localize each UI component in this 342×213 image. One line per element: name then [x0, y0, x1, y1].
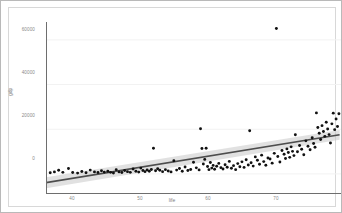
y-tick-label-60000: 60000: [9, 27, 35, 32]
data-points: [49, 27, 341, 175]
plot-area: [46, 22, 341, 194]
x-axis-title: life: [1, 197, 342, 203]
regression-line: [46, 135, 340, 183]
y-tick-label-0: 0: [9, 156, 35, 161]
scatter-plot-svg: [46, 22, 341, 194]
chart-frame: gdp 60000 40000 20000 0 40 50 60 70 life: [0, 0, 342, 213]
y-tick-label-40000: 40000: [9, 70, 35, 75]
y-axis-title: gdp: [7, 88, 13, 96]
chart-panel: gdp 60000 40000 20000 0 40 50 60 70: [8, 7, 336, 207]
y-tick-label-20000: 20000: [9, 113, 35, 118]
